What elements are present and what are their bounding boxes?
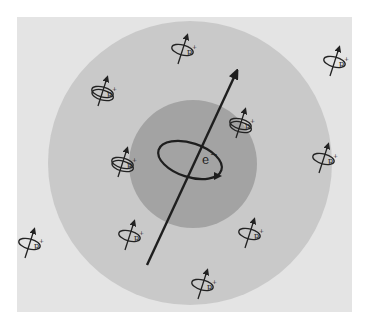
proton-charge: +	[344, 55, 349, 62]
electron-label: e	[202, 153, 209, 167]
proton-charge: +	[333, 152, 338, 159]
proton-charge: +	[39, 237, 44, 244]
proton-charge: +	[132, 156, 137, 163]
proton-charge: +	[112, 85, 117, 92]
proton-charge: +	[250, 117, 255, 124]
proton-charge: +	[259, 227, 264, 234]
proton-charge: +	[139, 229, 144, 236]
spin-diagram: e− p+p+p+p+p+p+p+p+p+p+	[0, 0, 372, 326]
proton-charge: +	[192, 43, 197, 50]
electron-charge: −	[210, 149, 218, 159]
proton-charge: +	[212, 278, 217, 285]
